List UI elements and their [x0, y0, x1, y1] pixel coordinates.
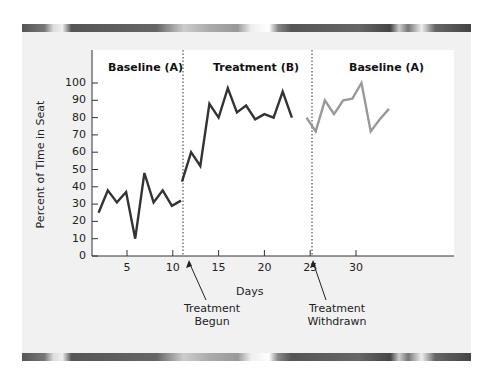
x-tick-label: 30: [344, 261, 368, 274]
annotation-begun-line2: Begun: [177, 315, 247, 328]
y-axis-ticks: [92, 83, 98, 256]
annotation-begun-line1: Treatment: [177, 302, 247, 315]
x-tick-label: 20: [252, 261, 276, 274]
y-tick-label: 30: [60, 197, 86, 210]
arrow-treatment-begun: [189, 262, 206, 300]
annotation-withdrawn-line1: Treatment: [297, 302, 377, 315]
phase-label-baseline: Baseline (A): [108, 61, 183, 74]
x-tick-label: 25: [298, 261, 322, 274]
decorative-stripe-bottom: [22, 353, 471, 361]
y-tick-label: 70: [60, 128, 86, 141]
phase-label-treatment: Treatment (B): [213, 61, 299, 74]
x-tick-label: 10: [161, 261, 185, 274]
y-tick-label: 40: [60, 180, 86, 193]
x-tick-label: 15: [207, 261, 231, 274]
y-tick-label: 0: [60, 249, 86, 262]
y-tick-label: 50: [60, 163, 86, 176]
x-axis-ticks: [127, 250, 356, 256]
series-treatment-b: [182, 88, 292, 181]
annotation-withdrawn-line2: Withdrawn: [297, 315, 377, 328]
y-tick-label: 90: [60, 93, 86, 106]
annotation-treatment-withdrawn: Treatment Withdrawn: [297, 302, 377, 328]
y-tick-label: 60: [60, 145, 86, 158]
y-tick-label: 20: [60, 214, 86, 227]
y-tick-label: 100: [60, 76, 86, 89]
x-tick-label: 5: [115, 261, 139, 274]
series-baseline-a-return: [307, 83, 390, 131]
annotation-treatment-begun: Treatment Begun: [177, 302, 247, 328]
x-axis-label: Days: [236, 285, 263, 298]
phase-label-baseline-return: Baseline (A): [349, 61, 424, 74]
y-axis-label: Percent of Time in Seat: [34, 95, 47, 235]
y-tick-label: 80: [60, 111, 86, 124]
series-baseline-a: [99, 173, 181, 239]
y-tick-label: 10: [60, 232, 86, 245]
